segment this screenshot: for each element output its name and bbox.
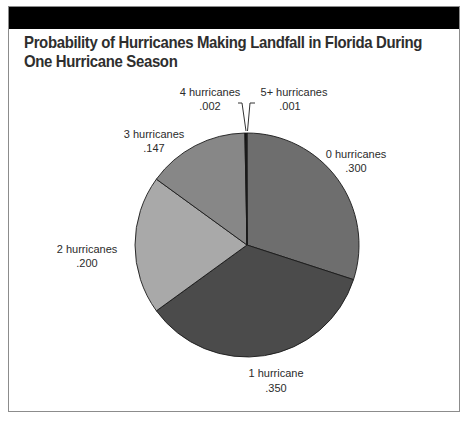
pie-slices xyxy=(135,133,359,357)
svg-text:1 hurricane: 1 hurricane xyxy=(248,367,303,379)
svg-text:4 hurricanes: 4 hurricanes xyxy=(180,86,241,98)
svg-text:2 hurricanes: 2 hurricanes xyxy=(57,243,118,255)
slice-label-4-hurricanes: 4 hurricanes .002 xyxy=(180,86,241,112)
svg-text:.001: .001 xyxy=(279,100,300,112)
slice-label-0-hurricanes: 0 hurricanes .300 xyxy=(326,148,387,174)
slice-label-3-hurricanes: 3 hurricanes .147 xyxy=(124,128,185,154)
svg-text:3 hurricanes: 3 hurricanes xyxy=(124,128,185,140)
svg-text:.200: .200 xyxy=(76,257,97,269)
leader-line-5plus-hurricanes xyxy=(248,103,256,131)
svg-text:.147: .147 xyxy=(143,142,164,154)
leader-line-4-hurricanes xyxy=(238,103,246,131)
pie-chart: 0 hurricanes .300 1 hurricane .350 2 hur… xyxy=(0,0,467,422)
svg-text:.300: .300 xyxy=(345,162,366,174)
svg-text:.002: .002 xyxy=(199,100,220,112)
svg-text:.350: .350 xyxy=(265,382,286,394)
slice-label-1-hurricane: 1 hurricane .350 xyxy=(248,367,303,394)
svg-text:0 hurricanes: 0 hurricanes xyxy=(326,148,387,160)
slice-label-2-hurricanes: 2 hurricanes .200 xyxy=(57,243,118,269)
slice-label-5plus-hurricanes: 5+ hurricanes .001 xyxy=(261,86,328,112)
svg-text:5+ hurricanes: 5+ hurricanes xyxy=(261,86,328,98)
